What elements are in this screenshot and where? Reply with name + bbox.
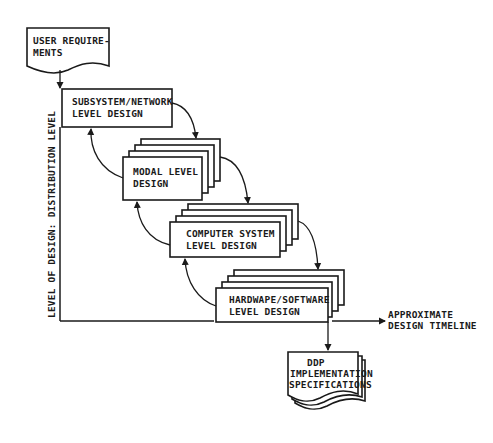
node-hardware: HARDWAPE/SOFTWARE LEVEL DESIGN — [216, 270, 344, 322]
ddp-line2: IMPLEMENTATION — [290, 368, 373, 379]
x-axis-label-line1: APPROXIMATE — [388, 309, 453, 320]
computer-line2: LEVEL DESIGN — [186, 240, 257, 251]
hardware-line1: HARDWAPE/SOFTWARE — [229, 294, 330, 305]
hardware-line2: LEVEL DESIGN — [229, 306, 300, 317]
user-requirements-line1: USER REQUIRE- — [33, 35, 110, 46]
y-axis-label: LEVEL OF DESIGN: DISTRIBUTION LEVEL — [46, 111, 57, 318]
feedback-computer-to-modal — [137, 202, 170, 245]
modal-line1: MODAL LEVEL — [133, 166, 198, 177]
feedback-hardware-to-computer — [185, 259, 216, 306]
feedback-modal-to-subsystem — [91, 129, 123, 178]
arrow-subsystem-to-modal — [172, 103, 196, 138]
node-subsystem: SUBSYSTEM/NETWORK LEVEL DESIGN — [62, 89, 173, 127]
x-axis-label-line2: DESIGN TIMELINE — [388, 320, 477, 331]
modal-line2: DESIGN — [133, 178, 169, 189]
node-user-requirements: USER REQUIRE- MENTS — [27, 28, 110, 73]
node-ddp: DDP IMPLEMENTATION SPECIFICATIONS — [288, 352, 373, 409]
node-modal: MODAL LEVEL DESIGN — [123, 139, 220, 200]
subsystem-line2: LEVEL DESIGN — [72, 108, 143, 119]
design-flow-diagram: LEVEL OF DESIGN: DISTRIBUTION LEVEL APPR… — [0, 0, 493, 443]
ddp-line3: SPECIFICATIONS — [289, 379, 372, 390]
ddp-line1: DDP — [307, 357, 325, 368]
arrow-modal-to-computer — [220, 157, 248, 203]
user-requirements-line2: MENTS — [33, 47, 63, 58]
subsystem-line1: SUBSYSTEM/NETWORK — [72, 96, 173, 107]
computer-line1: COMPUTER SYSTEM — [186, 228, 275, 239]
node-computer: COMPUTER SYSTEM LEVEL DESIGN — [170, 204, 298, 257]
arrow-computer-to-hardware — [298, 221, 318, 269]
